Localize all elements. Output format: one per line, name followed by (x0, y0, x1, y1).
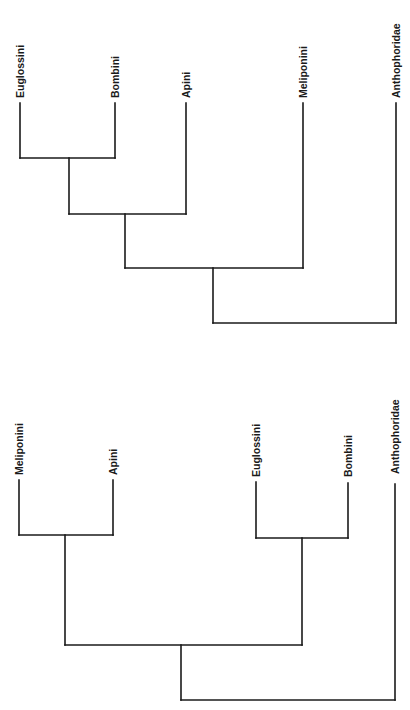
background (0, 0, 410, 710)
leaf-label-anthophoridae: Anthophoridae (389, 399, 401, 474)
cladogram-figure: Euglossini Bombini Apini Meliponini Anth… (0, 0, 410, 710)
leaf-label-bombini: Bombini (342, 435, 354, 477)
leaf-label-euglossini: Euglossini (250, 424, 262, 477)
leaf-label-euglossini: Euglossini (14, 45, 26, 98)
leaf-label-apini: Apini (180, 72, 192, 98)
leaf-label-meliponini: Meliponini (297, 46, 309, 98)
leaf-label-anthophoridae: Anthophoridae (390, 23, 402, 98)
leaf-label-meliponini: Meliponini (13, 423, 25, 475)
leaf-label-apini: Apini (107, 449, 119, 475)
leaf-label-bombini: Bombini (109, 56, 121, 98)
